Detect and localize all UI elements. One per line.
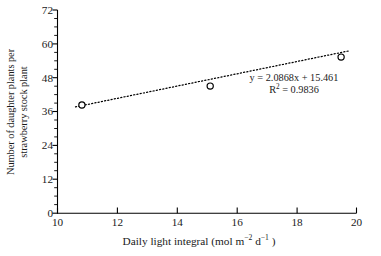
- x-tick-label: 18: [282, 216, 312, 228]
- regression-equation: y = 2.0868x + 15.461: [232, 72, 356, 84]
- data-point: [79, 102, 85, 108]
- x-tick-label: 20: [342, 216, 372, 228]
- x-axis-title: Daily light integral (mol m−2 d−1 ): [34, 234, 364, 248]
- chart-figure: Number of daughter plants per strawberry…: [0, 0, 381, 256]
- x-axis-tick-labels: 10 12 14 16 18 20: [0, 216, 381, 232]
- x-axis-title-post: ): [269, 235, 276, 247]
- r-squared-label: R2 = 0.9836: [232, 84, 356, 96]
- data-point: [207, 83, 213, 89]
- x-tick-label: 14: [162, 216, 192, 228]
- data-point: [338, 54, 344, 60]
- y-major-ticks: [53, 10, 58, 213]
- x-major-ticks: [58, 208, 357, 214]
- x-tick-label: 16: [222, 216, 252, 228]
- regression-annotation: y = 2.0868x + 15.461 R2 = 0.9836: [232, 72, 356, 97]
- r-squared-prefix: R: [269, 84, 276, 95]
- x-axis-title-sup-day: −1: [261, 233, 269, 242]
- r-squared-value: = 0.9836: [280, 84, 319, 95]
- x-tick-label: 10: [43, 216, 73, 228]
- axis-lines: [57, 10, 357, 214]
- x-axis-title-mid: d: [252, 235, 260, 247]
- x-tick-label: 12: [102, 216, 132, 228]
- x-axis-title-pre: Daily light integral (mol m: [123, 235, 245, 247]
